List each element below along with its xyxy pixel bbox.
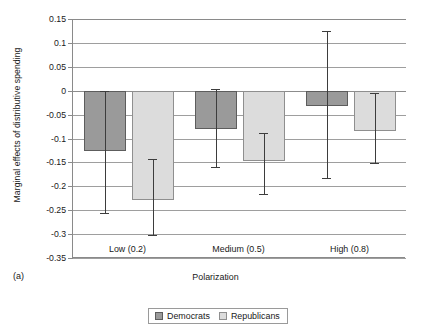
panel-label: (a) (13, 271, 24, 281)
error-bar-republicans-0 (153, 159, 154, 235)
y-axis-tick-label: -0.3 (51, 229, 66, 239)
y-axis-tick-label: 0.05 (49, 62, 66, 72)
legend-label-republicans: Republicans (231, 311, 280, 321)
error-cap-republicans-2-high (370, 93, 379, 94)
y-axis-tick (68, 19, 73, 20)
x-axis-tick-label: High (0.8) (330, 244, 369, 254)
gridline (73, 210, 406, 211)
y-axis-tick (68, 43, 73, 44)
y-axis-tick (68, 186, 73, 187)
y-axis-tick-label: -0.35 (46, 253, 66, 263)
legend: Democrats Republicans (148, 308, 288, 324)
y-axis-tick-label: -0.2 (51, 181, 66, 191)
gridline (73, 234, 406, 235)
gridline (73, 258, 406, 259)
legend-item-republicans: Republicans (219, 311, 280, 321)
gridline (73, 67, 406, 68)
error-bar-republicans-2 (375, 93, 376, 163)
plot-area: 0.150.10.050-0.05-0.1-0.15-0.2-0.25-0.3-… (72, 19, 405, 258)
error-cap-democrats-2-high (322, 31, 331, 32)
error-cap-democrats-0-low (100, 213, 109, 214)
error-bar-democrats-1 (216, 89, 217, 166)
error-cap-republicans-1-low (259, 194, 268, 195)
y-axis-tick (68, 115, 73, 116)
error-bar-democrats-0 (105, 91, 106, 213)
gridline (73, 19, 406, 20)
error-cap-democrats-1-high (211, 89, 220, 90)
y-axis-tick-label: 0.15 (49, 14, 66, 24)
error-cap-democrats-2-low (322, 178, 331, 179)
figure-panel-a: Marginal effects of distributive spendin… (0, 0, 431, 333)
gridline (73, 43, 406, 44)
error-cap-republicans-0-high (148, 159, 157, 160)
y-axis-tick (68, 234, 73, 235)
y-axis-tick (68, 139, 73, 140)
y-axis-title: Marginal effects of distributive spendin… (12, 0, 22, 250)
y-axis-tick (68, 162, 73, 163)
y-axis-tick (68, 67, 73, 68)
y-axis-tick-label: -0.15 (46, 157, 66, 167)
error-cap-democrats-0-high (100, 91, 109, 92)
y-axis-tick (68, 210, 73, 211)
y-axis-tick-label: 0 (61, 86, 66, 96)
y-axis-tick-label: -0.05 (46, 110, 66, 120)
error-bar-democrats-2 (327, 31, 328, 178)
error-bar-republicans-1 (264, 133, 265, 194)
y-axis-tick (68, 258, 73, 259)
gridline (73, 186, 406, 187)
legend-swatch-democrats-icon (155, 312, 163, 320)
error-cap-republicans-2-low (370, 163, 379, 164)
error-cap-republicans-1-high (259, 133, 268, 134)
error-cap-democrats-1-low (211, 167, 220, 168)
y-axis-tick-label: -0.25 (46, 205, 66, 215)
y-axis-tick (68, 91, 73, 92)
x-axis-tick-label: Low (0.2) (109, 244, 146, 254)
gridline (73, 162, 406, 163)
legend-label-democrats: Democrats (167, 311, 210, 321)
legend-item-democrats: Democrats (155, 311, 210, 321)
y-axis-tick-label: 0.1 (54, 38, 66, 48)
error-cap-republicans-0-low (148, 235, 157, 236)
y-axis-tick-label: -0.1 (51, 134, 66, 144)
x-axis-title: Polarization (0, 272, 431, 282)
legend-swatch-republicans-icon (219, 312, 227, 320)
x-axis-tick-label: Medium (0.5) (212, 244, 264, 254)
